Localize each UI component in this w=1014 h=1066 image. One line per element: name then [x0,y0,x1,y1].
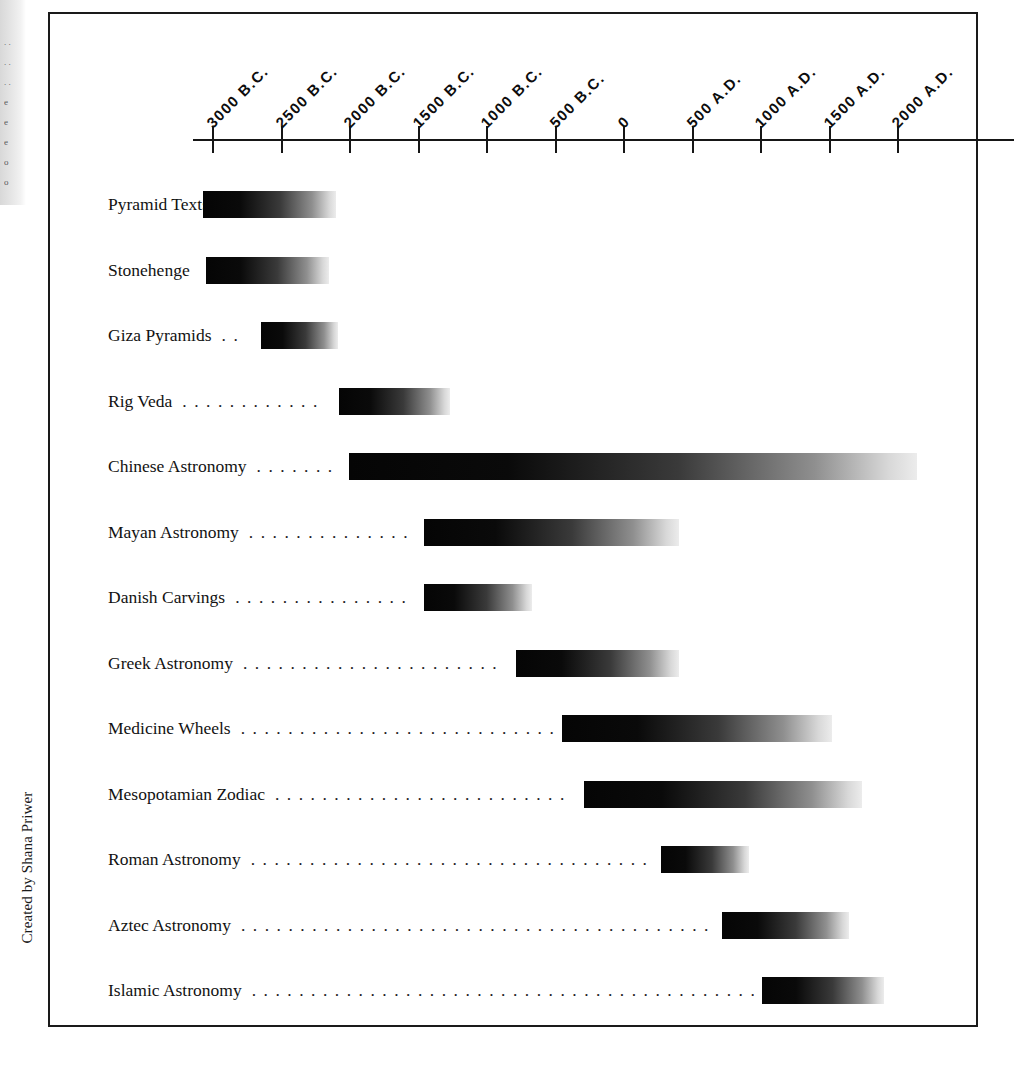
timeline-row: Medicine Wheels.........................… [50,711,976,745]
timeline-row: Greek Astronomy...................... [50,646,976,680]
axis-tick-label: 500 A.D. [682,70,743,131]
timeline-row-label: Aztec Astronomy [108,908,231,942]
scan-text-fragment: . . [4,58,18,67]
timeline-row-label: Mayan Astronomy [108,515,239,549]
timeline-row: Aztec Astronomy.........................… [50,908,976,942]
dot-leader: ...................... [243,646,508,680]
timeline-row: Stonehenge [50,253,976,287]
axis-tick-label: 500 B.C. [545,69,607,131]
timeline-row-label: Pyramid Texts [108,187,209,221]
timeline-bar [584,781,862,808]
dot-leader: ......................... [275,777,576,811]
axis-tick-label: 1500 A.D. [819,63,887,131]
timeline-row-label: Greek Astronomy [108,646,233,680]
timeline-row: Rig Veda............ [50,384,976,418]
dot-leader: ........................................ [241,908,714,942]
axis-tick-label: 3000 B.C. [203,62,272,131]
timeline-bar [516,650,679,677]
timeline-row-label: Stonehenge [108,253,190,287]
timeline-row-label: Rig Veda [108,384,172,418]
dot-leader: ....... [257,449,341,483]
timeline-bar [762,977,884,1004]
axis-tick-label: 0 [614,112,633,131]
axis-tick-label: 2500 B.C. [271,62,340,131]
figure-page: . .. .. .eeeoo 3000 B.C.2500 B.C.2000 B.… [0,0,1014,1066]
timeline-bar [206,257,329,284]
timeline-row: Giza Pyramids.. [50,318,976,352]
axis-tick-label: 2000 B.C. [340,62,409,131]
timeline-row-label: Danish Carvings [108,580,225,614]
scan-text-fragment: . . [4,78,18,87]
timeline-row-label: Islamic Astronomy [108,973,242,1007]
scan-text-fragment: . . [4,38,18,47]
timeline-row: Mesopotamian Zodiac.....................… [50,777,976,811]
figure-frame: 3000 B.C.2500 B.C.2000 B.C.1500 B.C.1000… [48,12,978,1027]
timeline-bar [339,388,450,415]
dot-leader: .............. [249,515,416,549]
timeline-row-label: Roman Astronomy [108,842,241,876]
timeline-row: Chinese Astronomy....... [50,449,976,483]
scan-text-fragment: o [4,158,18,167]
axis-tick-label: 1000 B.C. [477,62,546,131]
dot-leader: .. [222,318,253,352]
timeline-bar [424,519,679,546]
timeline-row-label: Chinese Astronomy [108,449,247,483]
timeline-bar [349,453,918,480]
timeline-bar [203,191,336,218]
scan-text-fragment: o [4,178,18,187]
dot-leader: ........................... [241,711,555,745]
dot-leader: .................................. [251,842,653,876]
timeline-row-label: Mesopotamian Zodiac [108,777,265,811]
scan-text-fragment: e [4,118,18,127]
axis-tick-label: 1500 B.C. [408,62,477,131]
figure-credit: Created by Shana Priwer [19,734,36,944]
timeline-bar [562,715,832,742]
axis-tick-label: 1000 A.D. [751,63,819,131]
timeline-row-label: Giza Pyramids [108,318,212,352]
scan-text-fragment: e [4,98,18,107]
scan-edge-artifact: . .. .. .eeeoo [0,0,26,205]
timeline-row-label: Medicine Wheels [108,711,231,745]
timeline-bar [661,846,749,873]
timeline-bar [722,912,849,939]
timeline-bar [261,322,338,349]
dot-leader: ........................................… [252,973,755,1007]
timeline-row: Islamic Astronomy.......................… [50,973,976,1007]
timeline-bar [424,584,532,611]
scan-text-fragment: e [4,138,18,147]
dot-leader: ............... [235,580,416,614]
timeline-row: Mayan Astronomy.............. [50,515,976,549]
dot-leader: ............ [182,384,331,418]
time-axis-line [193,139,1014,141]
timeline-row: Roman Astronomy.........................… [50,842,976,876]
timeline-row: Pyramid Texts [50,187,976,221]
axis-tick-label: 2000 A.D. [888,63,956,131]
timeline-row: Danish Carvings............... [50,580,976,614]
